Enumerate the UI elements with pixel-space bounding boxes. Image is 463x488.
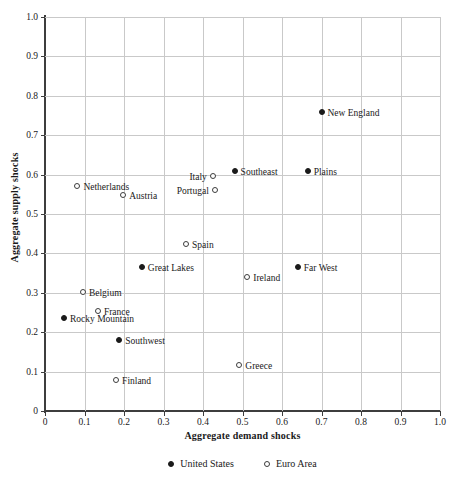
data-point-label: Plains xyxy=(314,167,337,177)
y-tick-mark xyxy=(41,332,45,333)
data-point-label: Belgium xyxy=(89,288,122,298)
data-point-label: Southwest xyxy=(125,336,165,346)
data-point-label: Great Lakes xyxy=(148,263,194,273)
data-point-label: Ireland xyxy=(253,273,280,283)
x-tick-label: 0.8 xyxy=(355,417,367,427)
y-tick-mark xyxy=(41,96,45,97)
x-tick-label: 0.6 xyxy=(276,417,288,427)
x-tick-label: 0.9 xyxy=(395,417,407,427)
x-tick-mark xyxy=(322,412,323,416)
x-tick-mark xyxy=(45,412,46,416)
data-point-label: Italy xyxy=(189,172,206,182)
y-tick-mark xyxy=(41,17,45,18)
data-point[interactable] xyxy=(80,289,86,295)
gridline-horizontal xyxy=(45,56,440,57)
data-point-label: New England xyxy=(328,108,380,118)
data-point-label: France xyxy=(104,307,130,317)
data-point-label: Southeast xyxy=(241,167,278,177)
y-tick-mark xyxy=(41,135,45,136)
y-axis-title: Aggregate supply shocks xyxy=(9,108,20,308)
data-point-label: Austria xyxy=(129,191,157,201)
data-point[interactable] xyxy=(305,168,311,174)
x-tick-label: 0.4 xyxy=(197,417,209,427)
y-tick-mark xyxy=(41,253,45,254)
y-tick-label: 0.8 xyxy=(10,91,38,101)
x-tick-mark xyxy=(401,412,402,416)
data-point[interactable] xyxy=(95,308,101,314)
x-tick-mark xyxy=(85,412,86,416)
y-tick-mark xyxy=(41,214,45,215)
filled-circle-icon xyxy=(168,461,174,467)
x-tick-mark xyxy=(164,412,165,416)
gridline-horizontal xyxy=(45,135,440,136)
open-circle-icon xyxy=(264,461,270,467)
y-tick-label: 0.1 xyxy=(10,367,38,377)
x-tick-mark xyxy=(282,412,283,416)
x-tick-label: 0.7 xyxy=(316,417,328,427)
data-point[interactable] xyxy=(120,192,126,198)
y-tick-mark xyxy=(41,372,45,373)
x-tick-label: 0.5 xyxy=(237,417,249,427)
x-tick-mark xyxy=(243,412,244,416)
y-tick-mark xyxy=(41,411,45,412)
scatter-chart-figure: New EnglandSoutheastPlainsGreat LakesFar… xyxy=(0,0,463,488)
data-point[interactable] xyxy=(210,173,216,179)
x-tick-label: 0.2 xyxy=(118,417,130,427)
x-tick-mark xyxy=(361,412,362,416)
data-point[interactable] xyxy=(236,362,242,368)
data-point[interactable] xyxy=(74,183,80,189)
data-point-label: Spain xyxy=(192,240,214,250)
data-point[interactable] xyxy=(212,187,218,193)
y-tick-label: 0 xyxy=(10,406,38,416)
gridline-horizontal xyxy=(45,372,440,373)
x-axis-title: Aggregate demand shocks xyxy=(45,430,440,441)
gridline-horizontal xyxy=(45,96,440,97)
gridline-vertical xyxy=(440,17,441,411)
data-point[interactable] xyxy=(116,337,122,343)
gridline-horizontal xyxy=(45,332,440,333)
x-tick-label: 0.3 xyxy=(158,417,170,427)
data-point[interactable] xyxy=(319,109,325,115)
plot-area: New EnglandSoutheastPlainsGreat LakesFar… xyxy=(45,17,440,411)
chart-legend: United StatesEuro Area xyxy=(45,458,440,469)
gridline-horizontal xyxy=(45,214,440,215)
data-point[interactable] xyxy=(183,241,189,247)
y-tick-label: 0.2 xyxy=(10,327,38,337)
gridline-horizontal xyxy=(45,253,440,254)
data-point-label: Finland xyxy=(122,376,151,386)
legend-label: Euro Area xyxy=(276,458,317,469)
data-point-label: Far West xyxy=(304,263,338,273)
y-tick-mark xyxy=(41,175,45,176)
x-tick-label: 0.1 xyxy=(79,417,91,427)
x-tick-label: 0 xyxy=(43,417,48,427)
data-point[interactable] xyxy=(295,264,301,270)
data-point[interactable] xyxy=(113,377,119,383)
y-tick-mark xyxy=(41,293,45,294)
y-tick-label: 0.9 xyxy=(10,51,38,61)
data-point[interactable] xyxy=(232,168,238,174)
data-point-label: Netherlands xyxy=(83,182,129,192)
y-tick-label: 1.0 xyxy=(10,12,38,22)
data-point-label: Portugal xyxy=(177,186,209,196)
legend-label: United States xyxy=(180,458,234,469)
data-point[interactable] xyxy=(61,315,67,321)
gridline-horizontal xyxy=(45,17,440,18)
data-point[interactable] xyxy=(139,264,145,270)
y-tick-mark xyxy=(41,56,45,57)
legend-item[interactable]: Euro Area xyxy=(264,458,317,469)
legend-item[interactable]: United States xyxy=(168,458,234,469)
x-tick-mark xyxy=(440,412,441,416)
x-tick-mark xyxy=(203,412,204,416)
data-point-label: Greece xyxy=(245,361,272,371)
data-point[interactable] xyxy=(244,274,250,280)
x-tick-label: 1.0 xyxy=(434,417,446,427)
x-tick-mark xyxy=(124,412,125,416)
